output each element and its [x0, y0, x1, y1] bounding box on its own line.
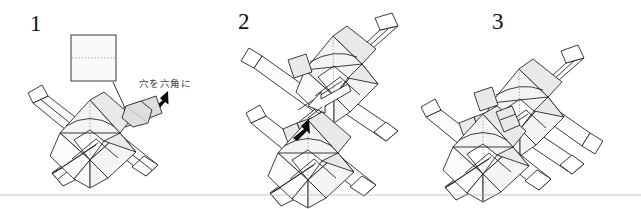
panel-2-artwork — [241, 13, 398, 208]
panel-1-artwork — [28, 35, 169, 188]
diagram-artwork — [0, 0, 641, 209]
panel-3-artwork — [421, 45, 603, 202]
step-number-1: 1 — [30, 12, 42, 35]
step-number-2: 2 — [238, 10, 250, 33]
paper-square — [71, 35, 116, 81]
step-number-3: 3 — [492, 10, 504, 33]
annotation-hexagonal-hole: 穴を六角に — [139, 76, 191, 90]
origami-diagram-root: 1 2 3 穴を六角に — [0, 0, 641, 209]
